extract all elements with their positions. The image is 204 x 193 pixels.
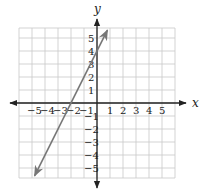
x-tick-label: 5	[159, 105, 165, 116]
y-tick-label: 1	[88, 85, 94, 96]
coordinate-plane: −5−4−3−2−11234554321−1−2−3−4−5 x y	[0, 0, 204, 193]
x-tick-label: 1	[107, 105, 113, 116]
x-axis-label: x	[192, 96, 199, 110]
x-tick-label: 4	[146, 105, 152, 116]
y-axis-label: y	[93, 2, 101, 16]
y-tick-label: 4	[88, 46, 94, 57]
y-tick-label: −3	[84, 137, 99, 148]
y-tick-label: −1	[84, 111, 99, 122]
x-tick-label: 3	[133, 105, 139, 116]
y-tick-label: 5	[88, 33, 94, 44]
x-tick-label: 2	[120, 105, 126, 116]
y-tick-label: 2	[88, 72, 94, 83]
y-tick-label: −2	[84, 124, 99, 135]
y-tick-label: −4	[84, 150, 99, 161]
y-tick-label: −5	[84, 163, 99, 174]
